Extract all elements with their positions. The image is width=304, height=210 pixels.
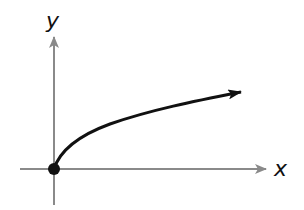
x-axis-label: x [273, 156, 288, 181]
sqrt-curve [54, 92, 241, 169]
function-graph: y x [0, 0, 304, 210]
y-axis-label: y [45, 8, 60, 33]
origin-point [48, 163, 60, 175]
